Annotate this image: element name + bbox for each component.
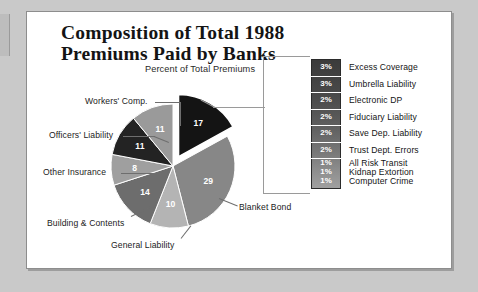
legend-percent: 1% [311,167,341,176]
legend-separator [311,92,341,93]
legend-label: Fiduciary Liability [349,112,417,122]
legend-percent: 2% [311,95,341,104]
leader-workers-comp [155,102,181,103]
legend-label: Trust Dept. Errors [349,145,419,155]
legend-label: Save Dep. Liability [349,128,422,138]
pie-slice-value: 8 [132,163,137,173]
pie-slice-value: 14 [140,187,150,197]
pie-slice-value: 10 [166,199,176,209]
legend-percent: 1% [311,158,341,167]
legend-separator [311,142,341,143]
pie-slice-value: 11 [135,141,144,151]
chart-page: Composition of Total 1988 Premiums Paid … [26,11,452,269]
leader-workers-comp-v [180,102,181,126]
legend-percent: 1% [311,176,341,185]
page-title: Composition of Total 1988 Premiums Paid … [61,22,361,64]
legend-separator [311,76,341,77]
chart-subtitle: Percent of Total Premiums [145,64,255,74]
legend-separator [311,109,341,110]
screenshot-root: Composition of Total 1988 Premiums Paid … [0,0,478,292]
legend-percent: 2% [311,145,341,154]
legend-separator [311,125,341,126]
leader-other-insurance [121,173,161,174]
legend-percent: 3% [311,79,341,88]
pie-label-blanket-bond: Blanket Bond [239,202,291,212]
pie-slice-value: 11 [155,124,164,134]
legend-percent: 2% [311,128,341,137]
leader-officers-liability [123,136,155,137]
legend: 3%Excess Coverage3%Umbrella Liability2%E… [283,59,441,189]
legend-label: Computer Crime [349,176,413,186]
pie-label-building-contents: Building & Contents [47,218,124,228]
legend-percent: 2% [311,112,341,121]
pie-slice-value: 17 [193,118,203,128]
legend-percent: 3% [311,62,341,71]
legend-callout-leader [213,107,265,108]
pie-label-general-liability: General Liability [111,240,174,250]
pie-label-workers-comp: Workers' Comp. [85,96,148,106]
legend-label: Umbrella Liability [349,79,416,89]
legend-label: Excess Coverage [349,62,418,72]
left-edge-tab [0,14,10,56]
pie-label-officers-liability: Officers' Liability [49,130,113,140]
pie-label-other-insurance: Other Insurance [43,167,106,177]
pie-slice-value: 29 [203,176,213,186]
legend-label: Electronic DP [349,95,402,105]
